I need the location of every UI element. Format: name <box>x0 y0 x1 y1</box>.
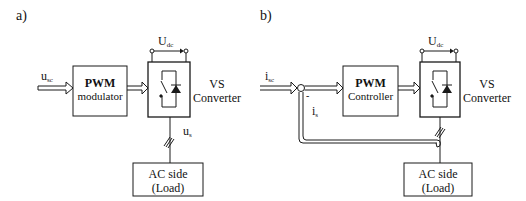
input-signal-label-a: usc <box>41 70 53 84</box>
vs-converter-label-b: VS Converter <box>462 77 512 105</box>
panel-a-label: a) <box>16 9 27 23</box>
output-signal-label-a: us <box>183 125 192 139</box>
vs-converter-box-a <box>148 62 190 117</box>
ac-load-label-b: AC side (Load) <box>404 167 472 195</box>
switch-diode-symbol-a <box>160 71 181 107</box>
pwm-controller-label: PWM Controller <box>343 77 398 103</box>
vs-converter-box-b <box>420 62 460 117</box>
input-signal-label-b: isc <box>265 70 274 84</box>
switch-diode-symbol-b <box>431 71 452 107</box>
pwm-to-converter-arrow-a <box>127 82 148 94</box>
summing-junction <box>298 85 305 92</box>
feedback-signal-label: is <box>312 105 318 119</box>
pwm-to-converter-arrow-b <box>398 82 420 94</box>
dc-terminals-a <box>150 49 188 63</box>
error-arrow-b <box>305 82 344 94</box>
panel-b-label: b) <box>260 9 272 23</box>
summing-minus-sign: - <box>306 91 309 101</box>
three-phase-hatch-a <box>164 137 174 148</box>
dc-voltage-label-b: Udc <box>428 35 443 49</box>
dc-voltage-label-a: Udc <box>158 35 173 49</box>
ac-load-label-a: AC side (Load) <box>133 167 203 195</box>
vs-converter-label-a: VS Converter <box>192 77 242 105</box>
three-phase-hatch-b <box>435 127 445 138</box>
dc-terminals-b <box>420 49 458 63</box>
pwm-modulator-label: PWM modulator <box>73 77 127 103</box>
